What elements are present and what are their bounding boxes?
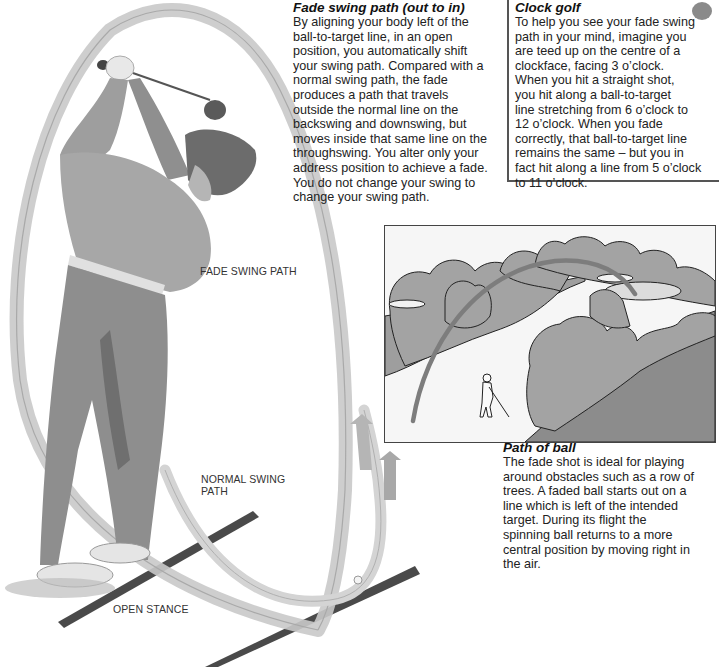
body-line: moves inside that same line on the: [293, 132, 493, 147]
body-line: central position by moving right in: [503, 543, 705, 558]
body-line: The fade shot is ideal for playing: [503, 455, 705, 470]
fade-swing-path-heading: Fade swing path (out to in): [293, 0, 493, 15]
body-line: normal swing path, the fade: [293, 73, 493, 88]
body-line: backswing and downswing, but: [293, 117, 493, 132]
golf-ball: [354, 576, 362, 584]
body-line: change your swing path.: [293, 190, 493, 205]
body-line: When you hit a straight shot,: [515, 73, 705, 88]
body-line: remains the same – but you in: [515, 146, 705, 161]
body-line: produces a path that travels: [293, 88, 493, 103]
body-line: spinning ball returns to a more: [503, 528, 705, 543]
fade-swing-path-label: FADE SWING PATH: [200, 266, 297, 278]
body-line: fact hit along a line from 5 o’clock: [515, 161, 705, 176]
clock-golf-section: Clock golf To help you see your fade swi…: [515, 0, 705, 190]
fade-swing-path-section: Fade swing path (out to in) By aligning …: [293, 0, 493, 205]
body-line: address position to achieve a fade.: [293, 161, 493, 176]
normal-swing-path-label-line2: PATH: [201, 486, 285, 498]
body-line: trees. A faded ball starts out on a: [503, 484, 705, 499]
body-line: your swing path. Compared with a: [293, 59, 493, 74]
body-line: to 11 o’clock.: [515, 176, 705, 191]
body-line: target. During its flight the: [503, 513, 705, 528]
body-line: By aligning your body left of the: [293, 15, 493, 30]
body-line: correctly, that ball-to-target line: [515, 132, 705, 147]
body-line: the air.: [503, 557, 705, 572]
body-line: are teed up on the centre of a: [515, 44, 705, 59]
body-line: you hit along a ball-to-target: [515, 88, 705, 103]
body-line: ball-to-target line, in an open: [293, 30, 493, 45]
body-line: 12 o’clock. When you fade: [515, 117, 705, 132]
body-line: To help you see your fade swing: [515, 15, 705, 30]
body-line: clockface, facing 3 o’clock.: [515, 59, 705, 74]
path-of-ball-heading: Path of ball: [503, 440, 705, 455]
ball-path-illustration: [384, 225, 716, 443]
normal-swing-path-label-line1: NORMAL SWING: [201, 474, 285, 486]
normal-swing-path-label: NORMAL SWING PATH: [201, 474, 285, 497]
body-line: line which is left of the intended: [503, 499, 705, 514]
body-line: outside the normal line on the: [293, 103, 493, 118]
body-line: around obstacles such as a row of: [503, 470, 705, 485]
body-line: path in your mind, imagine you: [515, 30, 705, 45]
body-line: You do not change your swing to: [293, 176, 493, 191]
path-of-ball-section: Path of ball The fade shot is ideal for …: [503, 440, 705, 572]
clock-golf-heading: Clock golf: [515, 0, 705, 15]
body-line: position, you automatically shift: [293, 44, 493, 59]
body-line: line stretching from 6 o’clock to: [515, 103, 705, 118]
body-line: throughswing. You alter only your: [293, 146, 493, 161]
open-stance-label: OPEN STANCE: [113, 604, 189, 616]
small-golfer-icon: [475, 373, 515, 423]
